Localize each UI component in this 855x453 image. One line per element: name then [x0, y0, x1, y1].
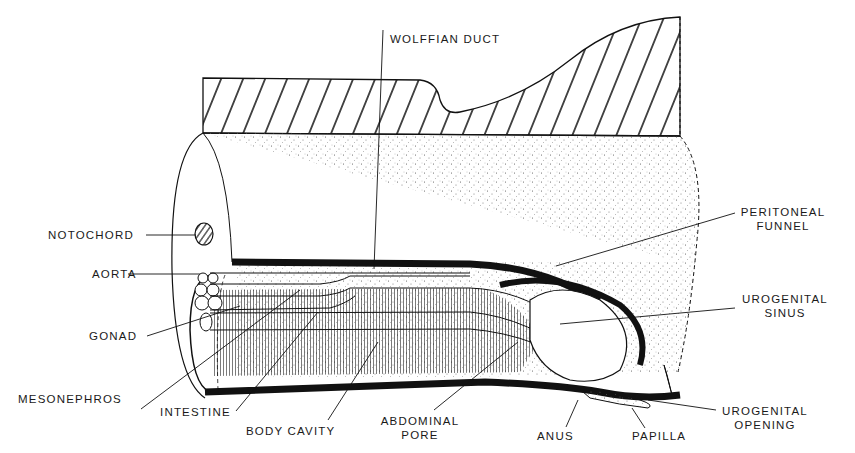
diagram-canvas: WOLFFIAN DUCT NOTOCHORD AORTA GONAD MESO…	[0, 0, 855, 453]
label-abdominal-pore: ABDOMINAL PORE	[370, 414, 470, 442]
label-notochord: NOTOCHORD	[48, 228, 134, 242]
label-urogenital-sinus-line2: SINUS	[735, 306, 835, 320]
label-urogenital-sinus: UROGENITAL SINUS	[735, 292, 835, 320]
label-abdominal-pore-line2: PORE	[370, 428, 470, 442]
notochord-shape	[195, 223, 213, 245]
label-wolffian-duct: WOLFFIAN DUCT	[390, 32, 500, 46]
label-anus: ANUS	[537, 429, 574, 443]
label-peritoneal-funnel-line2: FUNNEL	[735, 219, 831, 233]
label-urogenital-opening-line2: OPENING	[715, 418, 815, 432]
label-peritoneal-funnel-line1: PERITONEAL	[735, 205, 831, 219]
label-aorta: AORTA	[92, 267, 137, 281]
label-urogenital-sinus-line1: UROGENITAL	[735, 292, 835, 306]
label-body-cavity: BODY CAVITY	[246, 424, 335, 438]
label-urogenital-opening: UROGENITAL OPENING	[715, 404, 815, 432]
label-papilla: PAPILLA	[632, 429, 686, 443]
label-urogenital-opening-line1: UROGENITAL	[715, 404, 815, 418]
label-intestine: INTESTINE	[160, 405, 231, 419]
label-peritoneal-funnel: PERITONEAL FUNNEL	[735, 205, 831, 233]
label-abdominal-pore-line1: ABDOMINAL	[370, 414, 470, 428]
label-gonad: GONAD	[89, 329, 137, 343]
label-mesonephros: MESONEPHROS	[18, 392, 122, 406]
anatomy-illustration	[0, 0, 855, 453]
